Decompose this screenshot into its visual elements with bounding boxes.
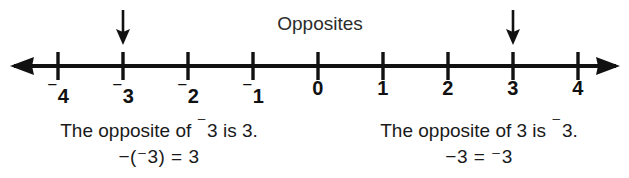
tick-label-1-digit: 1 (377, 77, 388, 99)
caption-left-prefix: The opposite of (60, 120, 196, 141)
marker-negative-three (116, 10, 130, 45)
tick-label-neg-1: ⁻1 (223, 76, 283, 108)
negative-sign-icon: ⁻ (242, 76, 253, 100)
negative-sign-icon: ⁻ (47, 76, 58, 100)
tick-label-neg-2-digit: 2 (188, 85, 199, 107)
marker-positive-three (506, 10, 520, 45)
tick-label-1: 1 (353, 76, 413, 100)
tick-label-neg-2: ⁻2 (158, 76, 218, 108)
tick-label-4-digit: 4 (572, 77, 583, 99)
tick-label-2: 2 (418, 76, 478, 100)
caption-right-equation: −3 = ⁻3 (319, 144, 629, 170)
down-arrow-head-left (116, 29, 130, 45)
tick-label-neg-3-digit: 3 (123, 85, 134, 107)
tick-label-3-digit: 3 (507, 77, 518, 99)
opposites-number-line-figure: Opposites ⁻4 ⁻3 ⁻2 ⁻1 0 1 2 3 4 The oppo… (0, 0, 629, 178)
caption-right: The opposite of 3 is ⁻3. −3 = ⁻3 (319, 110, 629, 170)
tick-label-neg-4-digit: 4 (58, 85, 69, 107)
tick-label-0-digit: 0 (312, 77, 323, 99)
caption-left-equation: −(⁻3) = 3 (0, 144, 319, 170)
caption-left: The opposite of ⁻3 is 3. −(⁻3) = 3 (0, 110, 319, 170)
caption-right-suffix: . (572, 120, 577, 141)
negative-sign-icon: ⁻ (197, 110, 207, 136)
tick-label-neg-4: ⁻4 (28, 76, 88, 108)
caption-right-value: 3 (562, 120, 573, 141)
caption-right-sentence: The opposite of 3 is ⁻3. (380, 120, 578, 141)
tick-label-3: 3 (483, 76, 543, 100)
tick-label-2-digit: 2 (442, 77, 453, 99)
caption-left-middle: is 3. (218, 120, 258, 141)
tick-label-neg-3: ⁻3 (93, 76, 153, 108)
negative-sign-icon: ⁻ (551, 110, 561, 136)
opposites-heading: Opposites (190, 12, 450, 35)
caption-left-sentence: The opposite of ⁻3 is 3. (60, 120, 258, 141)
axis-right-arrowhead (596, 57, 620, 75)
down-arrow-head-right (506, 29, 520, 45)
tick-label-neg-1-digit: 1 (253, 85, 264, 107)
negative-sign-icon: ⁻ (177, 76, 188, 100)
tick-label-0: 0 (288, 76, 348, 100)
tick-label-4: 4 (548, 76, 608, 100)
negative-sign-icon: ⁻ (112, 76, 123, 100)
axis-left-arrowhead (10, 57, 34, 75)
caption-left-value: 3 (207, 120, 218, 141)
caption-right-prefix: The opposite of 3 is (380, 120, 551, 141)
